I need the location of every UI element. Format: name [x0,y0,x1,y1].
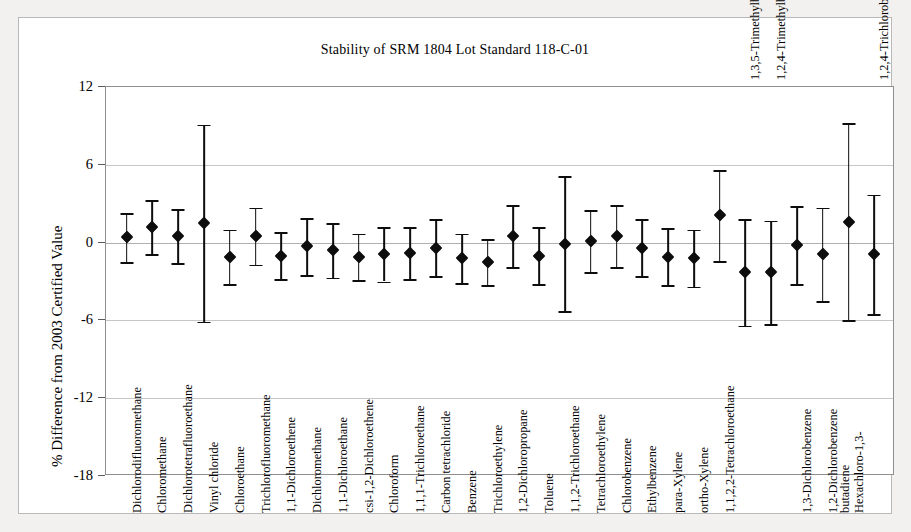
x-tick-label: csi-1,2-Dichloroethene [363,399,376,513]
error-bar-cap-bottom [610,267,623,269]
x-tick-label: Hexachloro-1,3- [853,431,866,513]
x-tick-label: Benzene [466,470,479,513]
error-bar-cap-bottom [120,262,133,264]
marker-diamond [327,244,340,257]
error-bar-cap-top [868,195,881,197]
error-bar-cap-bottom [197,322,210,324]
error-bar-cap-top [352,234,365,236]
error-bar-cap-bottom [223,284,236,286]
marker-diamond [378,248,391,261]
marker-diamond [455,252,468,265]
x-tick-label: Vinyl chloride [208,442,221,513]
marker-diamond [816,248,829,261]
error-bar-cap-top [430,219,443,221]
x-tick-label: 1,3,5-Trimethylbenzene [749,0,762,80]
marker-diamond [404,247,417,260]
x-tick-label: Dichlorodifluoromethane [131,387,144,513]
error-bar-cap-top [610,205,623,207]
error-bar-cap-top [739,219,752,221]
gridline [106,398,893,399]
error-bar-cap-top [223,230,236,232]
error-bar-cap-bottom [739,326,752,328]
error-bar-cap-top [481,239,494,241]
error-bar-cap-bottom [481,285,494,287]
x-tick-label: Chlorobenzene [621,438,634,513]
marker-diamond [842,215,855,228]
x-tick-label: Tetrachloroethylene [595,414,608,513]
y-tick-mark [98,242,105,243]
x-tick-label: Ethylbenzene [646,446,659,513]
marker-diamond [868,248,881,261]
marker-diamond [791,239,804,252]
x-tick-label: 1,2,4-Trimethylbenzene [775,0,788,80]
x-tick-label: butadiene [839,465,852,513]
screenshot-root: Stability of SRM 1804 Lot Standard 118-C… [0,0,911,532]
error-bar-cap-bottom [430,276,443,278]
marker-diamond [172,230,185,243]
error-bar-cap-bottom [636,276,649,278]
marker-diamond [713,209,726,222]
marker-diamond [146,221,159,234]
gridline [106,165,893,166]
error-bar-cap-top [455,234,468,236]
error-bar-cap-bottom [275,279,288,281]
marker-diamond [533,249,546,262]
error-bar-cap-top [120,213,133,215]
y-tick-mark [98,475,105,476]
y-tick-mark [98,397,105,398]
marker-diamond [275,249,288,262]
marker-diamond [765,266,778,279]
error-bar-cap-top [197,125,210,127]
error-bar-cap-top [301,218,314,220]
y-tick-mark [98,319,105,320]
marker-diamond [249,230,262,243]
gridline [106,320,893,321]
x-tick-label: Dichloromethane [311,427,324,513]
x-tick-label: Trichloroethylene [492,425,505,513]
y-tick-mark [98,86,105,87]
marker-diamond [739,266,752,279]
error-bar-cap-bottom [326,278,339,280]
gridline [106,243,893,244]
error-bar-cap-top [636,219,649,221]
x-tick-label: Chloroform [388,454,401,513]
x-tick-label: Chloroethane [234,446,247,513]
error-bar-cap-bottom [146,254,159,256]
error-bar-cap-bottom [842,320,855,322]
error-bar-cap-bottom [662,285,675,287]
error-bar-cap-bottom [713,261,726,263]
marker-diamond [662,250,675,263]
y-tick-label: -12 [47,389,93,406]
error-bar-cap-top [249,208,262,210]
figure-frame: Stability of SRM 1804 Lot Standard 118-C… [18,17,892,514]
marker-diamond [223,250,236,263]
error-bar-cap-top [378,227,391,229]
x-tick-label: 1,1,1-Trichloroethane [414,405,427,513]
error-bar-cap-top [713,170,726,172]
error-bar-cap-top [662,228,675,230]
error-bar-cap-top [584,210,597,212]
marker-diamond [481,256,494,269]
y-tick-label: 6 [47,155,93,172]
error-bar-cap-bottom [455,283,468,285]
error-bar-cap-top [687,230,700,232]
x-tick-label: Trichlorofluoromethane [260,394,273,513]
x-tick-label: para-Xylene [672,452,685,513]
marker-diamond [198,217,211,230]
y-tick-label: -6 [47,311,93,328]
x-tick-label: ortho-Xylene [698,447,711,513]
x-tick-label: 1,2,4-Trichlorobenzene [878,0,891,80]
y-tick-label: 0 [47,233,93,250]
error-bar-cap-bottom [249,265,262,267]
error-bar-cap-top [816,208,829,210]
y-axis-label: % Difference from 2003 Certified Value [49,226,66,467]
error-bar-cap-bottom [533,284,546,286]
error-bar-cap-top [842,123,855,125]
x-tick-label: 1,1-Dichloroethane [337,417,350,513]
error-bar-cap-top [146,200,159,202]
y-tick-label: -18 [47,467,93,484]
error-bar-cap-top [507,205,520,207]
error-bar-cap-top [404,227,417,229]
x-tick-label: 1,1,2,2-Tetrachloroethane [724,386,737,513]
error-bar-cap-bottom [816,301,829,303]
